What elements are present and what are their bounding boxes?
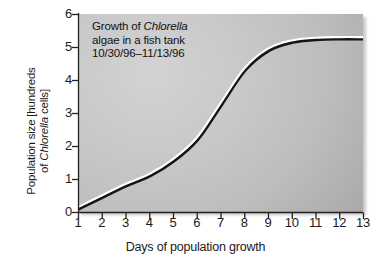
x-tick-label-12: 12 [328,216,350,230]
x-tick-label-7: 7 [210,216,232,230]
x-tick-label-4: 4 [138,216,160,230]
x-tick-label-1: 1 [67,216,89,230]
x-tick-label-5: 5 [162,216,184,230]
x-tick-label-6: 6 [186,216,208,230]
x-tick-label-9: 9 [257,216,279,230]
x-axis-label: Days of population growth [0,240,391,254]
x-axis-tick-labels: 12345678910111213 [0,216,391,232]
x-tick-label-10: 10 [281,216,303,230]
x-tick-label-3: 3 [115,216,137,230]
x-tick-label-8: 8 [233,216,255,230]
x-tick-label-13: 13 [352,216,374,230]
x-tick-label-2: 2 [91,216,113,230]
y-tick-marks [72,15,78,213]
x-tick-label-11: 11 [305,216,327,230]
chart-figure: Population size [hundreds of Chlorella c… [0,0,391,267]
